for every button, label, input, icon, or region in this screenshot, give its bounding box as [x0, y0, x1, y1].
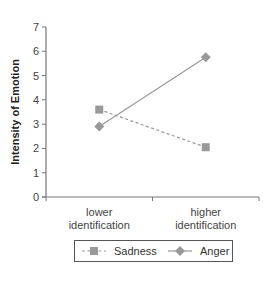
x-axis: loweridentificationhigheridentification: [42, 197, 259, 231]
y-tick-label: 5: [33, 70, 39, 82]
y-tick-label: 2: [33, 142, 39, 154]
square-marker: [95, 106, 103, 114]
diamond-marker: [94, 122, 104, 132]
series-group: [94, 52, 211, 151]
diamond-marker: [201, 52, 211, 62]
legend: SadnessAnger: [75, 241, 233, 262]
x-category-label: loweridentification: [69, 206, 130, 231]
square-marker: [202, 143, 210, 151]
y-axis-title: Intensity of Emotion: [9, 59, 21, 165]
legend-label: Anger: [200, 245, 230, 257]
legend-label: Sadness: [114, 245, 157, 257]
series-anger: [94, 52, 211, 131]
y-tick-label: 0: [33, 191, 39, 203]
square-legend-icon: [90, 247, 98, 255]
y-tick-label: 3: [33, 118, 39, 130]
y-axis: 01234567: [33, 21, 46, 203]
line-chart: Intensity of Emotion 01234567 lowerident…: [0, 0, 275, 287]
y-tick-label: 1: [33, 167, 39, 179]
y-tick-label: 7: [33, 21, 39, 33]
series-sadness: [95, 106, 210, 152]
y-tick-label: 4: [33, 94, 39, 106]
x-category-label: higheridentification: [175, 206, 236, 231]
y-tick-label: 6: [33, 45, 39, 57]
